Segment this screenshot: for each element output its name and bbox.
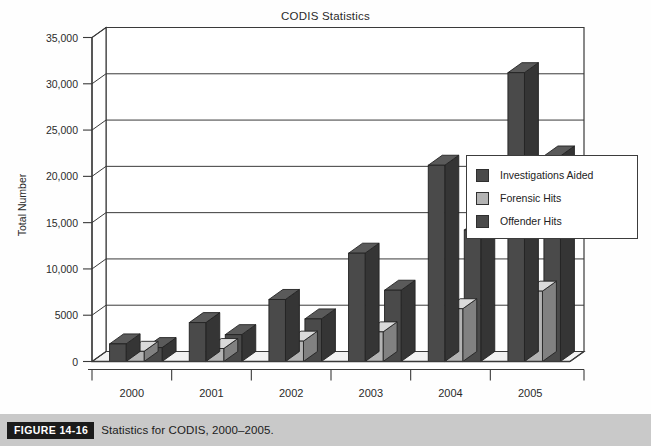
legend-swatch-forensic-hits	[476, 192, 489, 205]
legend-swatch-investigations-aided	[476, 169, 489, 182]
y-tick-label: 30,000	[46, 78, 78, 90]
figure-caption-text: Statistics for CODIS, 2000–2005.	[101, 424, 274, 436]
y-tick-label: 15,000	[46, 217, 78, 229]
bar-2001-series-0	[189, 313, 220, 362]
x-tick-group: 200020012002200320042005	[88, 370, 584, 399]
figure-number-badge: FIGURE 14-16	[7, 422, 94, 439]
bar-2002-series-0	[269, 289, 300, 361]
y-tick-label: 10,000	[46, 263, 78, 275]
y-tick-label: 25,000	[46, 124, 78, 136]
legend-swatch-offender-hits	[476, 215, 489, 228]
x-tick-label-2005: 2005	[518, 387, 542, 399]
bar-2003-series-0	[349, 243, 380, 361]
chart-legend: Investigations Aided Forensic Hits Offen…	[466, 155, 638, 239]
legend-item-investigations-aided: Investigations Aided	[476, 164, 637, 186]
x-tick-label-2004: 2004	[438, 387, 462, 399]
y-tick-label: 0	[72, 356, 78, 368]
y-tick-group: 0500010,00015,00020,00025,00030,00035,00…	[46, 32, 92, 368]
legend-label-offender-hits: Offender Hits	[500, 215, 562, 227]
legend-label-investigations-aided: Investigations Aided	[500, 169, 593, 181]
bar-2004-series-0	[428, 155, 459, 361]
y-tick-label: 35,000	[46, 32, 78, 44]
legend-label-forensic-hits: Forensic Hits	[500, 192, 561, 204]
figure-caption-bar: FIGURE 14-16 Statistics for CODIS, 2000–…	[0, 414, 651, 446]
x-tick-label-2001: 2001	[199, 387, 223, 399]
figure-container: CODIS Statistics Total Number 0500010,00…	[0, 0, 651, 414]
x-tick-label-2002: 2002	[279, 387, 303, 399]
x-tick-label-2003: 2003	[359, 387, 383, 399]
y-tick-label: 5000	[55, 309, 79, 321]
x-tick-label-2000: 2000	[120, 387, 144, 399]
legend-item-forensic-hits: Forensic Hits	[476, 187, 637, 209]
legend-item-offender-hits: Offender Hits	[476, 210, 637, 232]
y-tick-label: 20,000	[46, 170, 78, 182]
